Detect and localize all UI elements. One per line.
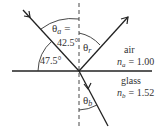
theta-a-label: θa= [52, 22, 71, 36]
theta-a-value: 42.5° [57, 37, 79, 48]
surface-angle-value: 47.5° [40, 55, 62, 66]
theta-b-label: θb [83, 94, 92, 108]
index-b-label: nb= 1.52 [117, 87, 154, 100]
refraction-diagram: θa= 42.5° θr 47.5° θb air na= 1.00 glass… [0, 0, 164, 133]
index-a-label: na= 1.00 [117, 56, 154, 69]
medium-air-label: air [124, 44, 135, 55]
medium-glass-label: glass [121, 75, 141, 86]
theta-r-label: θr [83, 41, 92, 55]
